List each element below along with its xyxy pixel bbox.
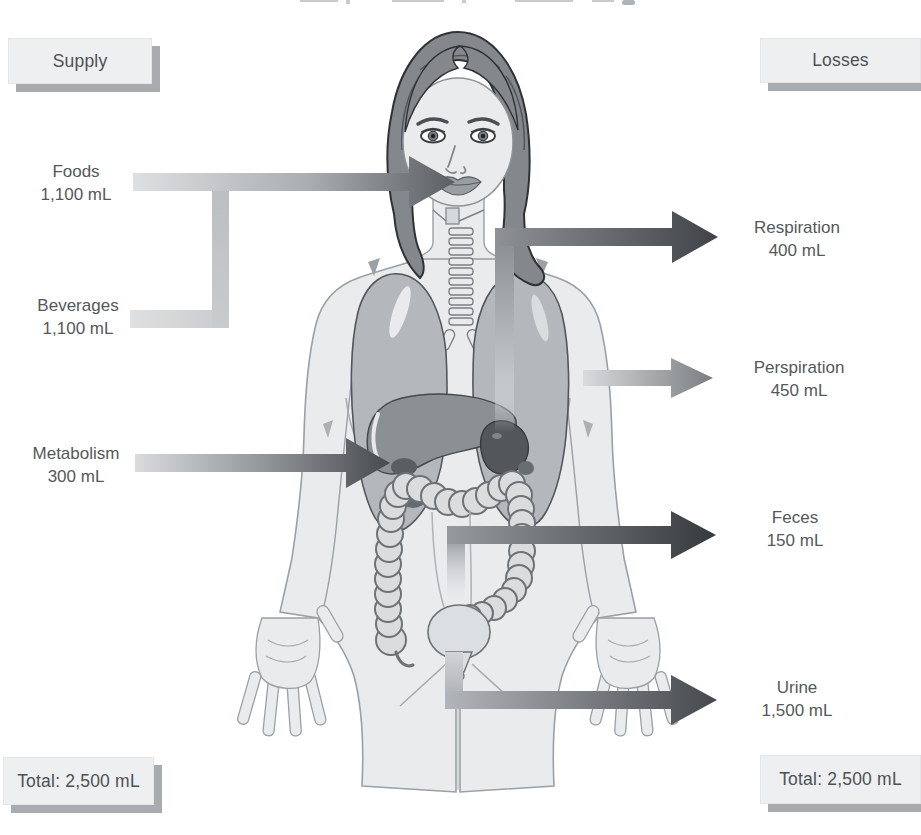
metabolism-name: Metabolism: [6, 442, 146, 465]
left-eye: [421, 129, 445, 143]
beverages-arrow-vertical: [212, 190, 229, 328]
right-eye: [471, 129, 495, 143]
stomach-highlight: [492, 433, 502, 439]
urine-label: Urine 1,500 mL: [727, 676, 867, 722]
metabolism-value: 300 mL: [6, 465, 146, 488]
losses-total: Total: 2,500 mL: [779, 769, 902, 790]
urine-value: 1,500 mL: [727, 699, 867, 722]
respiration-value: 400 mL: [727, 239, 867, 262]
urine-arrow-vertical: [445, 652, 463, 692]
losses-total-box: Total: 2,500 mL: [760, 755, 921, 804]
foods-name: Foods: [6, 160, 146, 183]
supply-title: Supply: [53, 51, 108, 72]
losses-title: Losses: [812, 50, 869, 71]
beverages-label: Beverages 1,100 mL: [8, 294, 148, 340]
feces-label: Feces 150 mL: [725, 506, 865, 552]
supply-title-box: Supply: [8, 38, 152, 84]
left-hand: [236, 604, 345, 737]
feces-arrow-vertical: [447, 544, 465, 600]
losses-title-box: Losses: [760, 38, 921, 83]
supply-total-box: Total: 2,500 mL: [3, 757, 154, 805]
perspiration-name: Perspiration: [729, 356, 869, 379]
respiration-label: Respiration 400 mL: [727, 216, 867, 262]
perspiration-value: 450 mL: [729, 379, 869, 402]
beverages-name: Beverages: [8, 294, 148, 317]
urine-name: Urine: [727, 676, 867, 699]
feces-name: Feces: [725, 506, 865, 529]
necklace-pendant: [446, 208, 459, 224]
foods-value: 1,100 mL: [6, 183, 146, 206]
respiration-arrow-vertical: [495, 246, 514, 432]
metabolism-arrow: [135, 438, 390, 488]
feces-value: 150 mL: [725, 529, 865, 552]
metabolism-label: Metabolism 300 mL: [6, 442, 146, 488]
beverages-value: 1,100 mL: [8, 317, 148, 340]
respiration-name: Respiration: [727, 216, 867, 239]
perspiration-label: Perspiration 450 mL: [729, 356, 869, 402]
foods-label: Foods 1,100 mL: [6, 160, 146, 206]
right-hand: [571, 604, 680, 737]
water-balance-diagram: Supply Losses Foods 1,100 mL Beverages 1…: [0, 0, 921, 835]
supply-total: Total: 2,500 mL: [17, 771, 140, 792]
